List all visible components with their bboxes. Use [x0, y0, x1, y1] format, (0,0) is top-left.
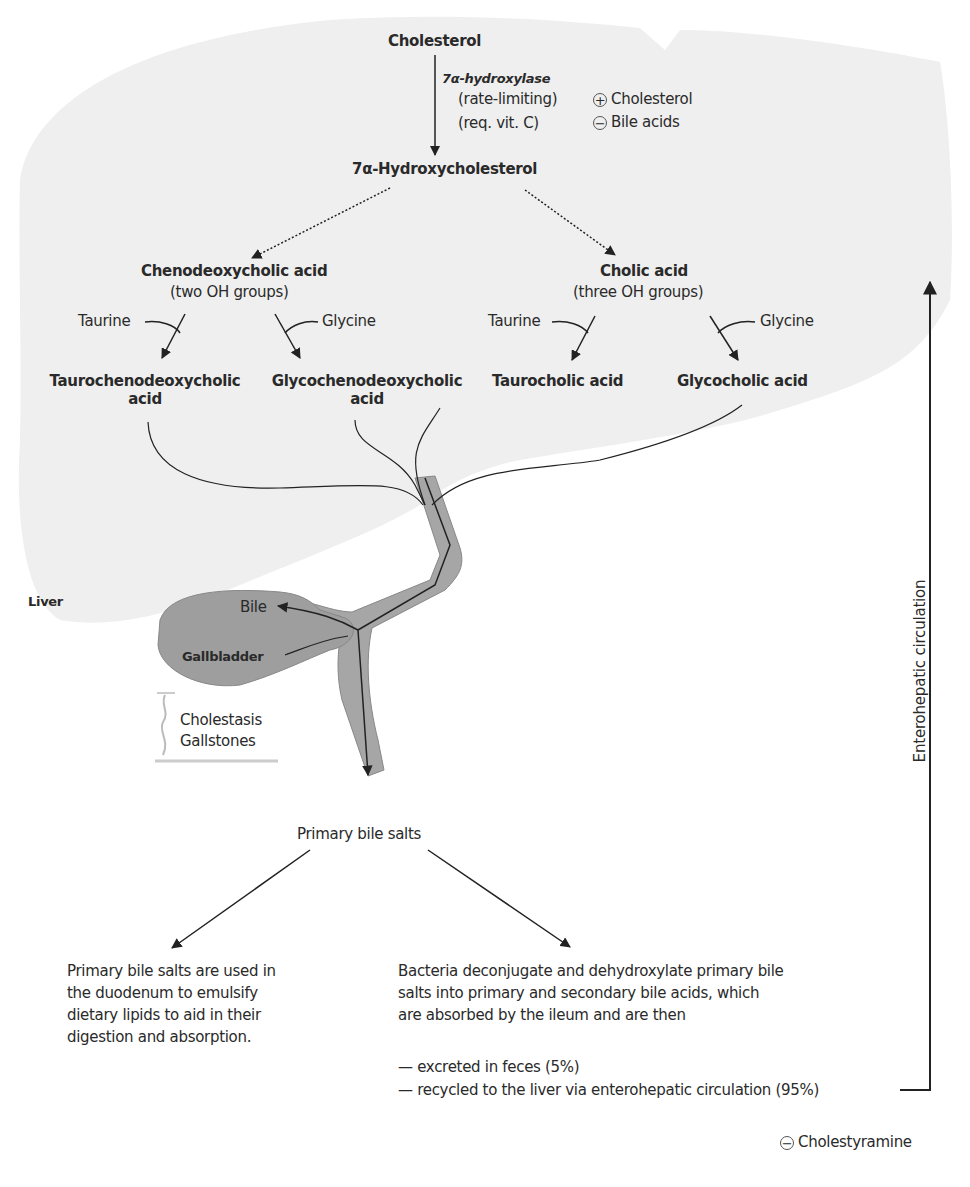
fate-excreted: — excreted in feces (5%) — [398, 1058, 579, 1076]
plus-icon: + — [593, 93, 607, 107]
gallbladder-label: Gallbladder — [182, 648, 263, 666]
fate-recycled: — recycled to the liver via enterohepati… — [398, 1081, 819, 1099]
glycine-label-left: Glycine — [322, 312, 376, 330]
glycine-label-right: Glycine — [760, 312, 814, 330]
primary-bile-salts-label: Primary bile salts — [297, 825, 421, 843]
conjugate-taurochenodeoxycholic: Taurochenodeoxycholic acid — [40, 372, 250, 408]
right-acid-note: (three OH groups) — [573, 283, 703, 301]
liver-label: Liver — [28, 593, 63, 611]
disorders-note: Cholestasis Gallstones — [180, 710, 262, 752]
cholesterol-label: Cholesterol — [388, 32, 481, 50]
bile-label: Bile — [240, 598, 267, 616]
left-acid-note: (two OH groups) — [170, 283, 289, 301]
right-acid-label: Cholic acid — [600, 262, 688, 280]
minus-icon: − — [593, 116, 607, 130]
regulation-negative: −Bile acids — [593, 113, 680, 131]
conjugate-taurocholic: Taurocholic acid — [492, 372, 623, 390]
conjugate-glycocholic: Glycocholic acid — [677, 372, 808, 390]
enterohepatic-circulation-label: Enterohepatic circulation — [911, 571, 929, 771]
regulation-positive: +Cholesterol — [593, 90, 692, 108]
left-acid-label: Chenodeoxycholic acid — [141, 262, 327, 280]
bacteria-outcome-text: Bacteria deconjugate and dehydroxylate p… — [398, 960, 784, 1026]
taurine-label-left: Taurine — [78, 312, 130, 330]
inhibitor-note: −Cholestyramine — [780, 1133, 912, 1151]
minus-icon: − — [780, 1136, 794, 1150]
enzyme-note-rate-limiting: (rate-limiting) — [458, 90, 557, 108]
intermediate-label: 7α-Hydroxycholesterol — [352, 160, 537, 178]
enzyme-label: 7α-hydroxylase — [442, 70, 550, 88]
taurine-label-right: Taurine — [488, 312, 540, 330]
conjugate-glycochenodeoxycholic: Glycochenodeoxycholic acid — [262, 372, 472, 408]
duodenum-outcome-text: Primary bile salts are used in the duode… — [67, 960, 276, 1048]
enzyme-note-vitamin-c: (req. vit. C) — [458, 114, 539, 132]
